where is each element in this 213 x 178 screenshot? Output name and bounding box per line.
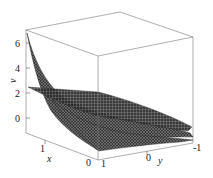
x-tick-0: 0 bbox=[86, 157, 91, 168]
z-tick-2: 2 bbox=[15, 88, 20, 99]
z-tick-0: 0 bbox=[15, 113, 20, 124]
y-tick-1: 1 bbox=[101, 158, 106, 169]
y-axis-label: y bbox=[157, 155, 163, 166]
surface-plot: 6 4 2 0 v 1 x 0 1 0 y -1 bbox=[0, 0, 213, 178]
y-tick-0: 0 bbox=[146, 152, 151, 163]
z-tick-6: 6 bbox=[15, 38, 20, 49]
x-tick-1: 1 bbox=[40, 143, 45, 154]
z-tick-4: 4 bbox=[15, 63, 20, 74]
z-axis-label: v bbox=[7, 78, 18, 83]
y-tick-neg1: -1 bbox=[193, 142, 201, 153]
x-axis-label: x bbox=[46, 153, 52, 164]
z-axis-ticks bbox=[26, 43, 30, 118]
